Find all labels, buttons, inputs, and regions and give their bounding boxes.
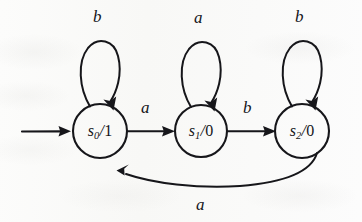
edge-label-s2-s0: a [196,196,205,213]
edge-label-self-loop-s0: b [93,8,102,25]
edge-label-self-loop-s1: a [194,9,203,26]
edge-label-s1-s2: b [243,99,252,116]
state-s0-output: 1 [104,122,112,139]
state-label-s0: s0/1 [64,123,136,142]
edge-label-s0-s1: a [141,99,150,116]
state-diagram: s0/1 s1/0 s2/0 b a b a b a [0,0,362,222]
state-nodes-canvas [0,0,362,222]
state-label-s1: s1/0 [165,123,237,142]
state-s1-output: 0 [205,122,213,139]
state-s2-output: 0 [306,122,314,139]
edge-label-self-loop-s2: b [295,8,304,25]
state-label-s2: s2/0 [266,123,338,142]
